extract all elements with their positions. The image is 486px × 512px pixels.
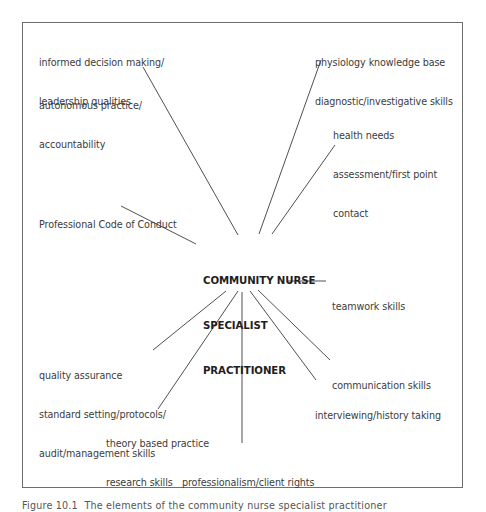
figure-caption: Figure 10.1 The elements of the communit… <box>22 499 387 512</box>
node-line: professionalism/client rights <box>182 476 314 489</box>
node-line: quality assurance <box>39 369 166 382</box>
node-line: assessment/first point <box>333 168 437 181</box>
node-line: teamwork skills <box>332 300 405 313</box>
node-teamwork: teamwork skills <box>332 274 405 326</box>
central-node-line: SPECIALIST <box>203 318 315 333</box>
node-line: autonomous practice/ <box>39 99 142 112</box>
node-line: theory based practice <box>106 437 209 450</box>
node-line: informed decision making/ <box>39 56 164 69</box>
node-professionalism: professionalism/client rights <box>182 450 314 502</box>
node-line: contact <box>333 207 437 220</box>
node-line: physiology knowledge base <box>315 56 453 69</box>
node-interviewing: interviewing/history taking <box>315 383 441 435</box>
central-node-line: COMMUNITY NURSE <box>203 273 315 288</box>
node-autonomous-practice: autonomous practice/ accountability <box>39 73 142 164</box>
central-node: COMMUNITY NURSE SPECIALIST PRACTITIONER <box>203 243 315 393</box>
node-line: Professional Code of Conduct <box>39 218 177 231</box>
central-node-line: PRACTITIONER <box>203 363 315 378</box>
node-line: accountability <box>39 138 142 151</box>
node-professional-code: Professional Code of Conduct <box>39 192 177 244</box>
node-line: interviewing/history taking <box>315 409 441 422</box>
node-line: health needs <box>333 129 437 142</box>
node-health-needs: health needs assessment/first point cont… <box>333 103 437 233</box>
